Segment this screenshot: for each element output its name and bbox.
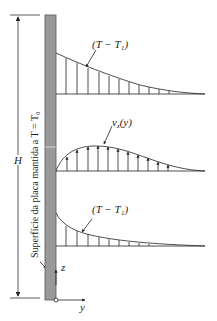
bottom-profile-pointer [82, 219, 92, 232]
bottom-temperature-profile [56, 213, 205, 246]
z-axis-label: z [60, 261, 66, 273]
bottom-profile-label: (T − T₁) [92, 203, 128, 216]
axes [54, 270, 85, 302]
diagram-canvas: H Superfície da placa mantida a T = T₀ (… [0, 0, 217, 321]
top-profile-label: (T − T₁) [92, 38, 128, 51]
top-profile-pointer [86, 50, 96, 67]
velocity-profile [56, 146, 205, 171]
velocity-arrows [67, 146, 168, 171]
y-axis-label: y [79, 301, 85, 313]
velocity-label: vz(y) [112, 116, 132, 130]
velocity-profile-pointer [104, 126, 112, 144]
top-temperature-profile [56, 53, 205, 94]
heated-plate [45, 15, 56, 300]
plate-caption: Superfície da placa mantida a T = T₀ [29, 111, 40, 258]
height-label: H [13, 154, 23, 166]
